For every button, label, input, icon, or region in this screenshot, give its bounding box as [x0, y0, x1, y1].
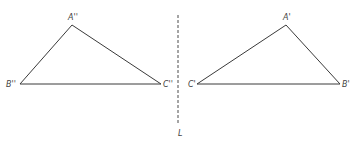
axis-l: L	[178, 15, 182, 138]
reflection-diagram: A'' B'' C'' L A' C' B'	[0, 0, 358, 147]
label-a-prime: A'	[282, 13, 291, 22]
label-c-prime: C'	[188, 80, 196, 89]
edge-a2-c2	[72, 25, 161, 84]
label-c-double-prime: C''	[163, 80, 173, 89]
label-a-double-prime: A''	[67, 13, 78, 22]
label-b-prime: B'	[342, 80, 350, 89]
edge-a1-b1	[286, 25, 340, 84]
label-axis: L	[178, 129, 182, 138]
triangle-a-prime: A' C' B'	[188, 13, 350, 89]
edge-a1-c1	[197, 25, 286, 84]
label-b-double-prime: B''	[6, 80, 16, 89]
triangle-a-double-prime: A'' B'' C''	[6, 13, 173, 89]
edge-a2-b2	[20, 25, 72, 84]
